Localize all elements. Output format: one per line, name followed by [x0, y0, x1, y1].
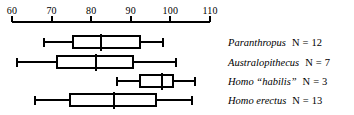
axis-tick-label-90: 90 [126, 5, 136, 16]
legend-row: Homo erectusN=13 [228, 91, 354, 109]
box-iqr [73, 36, 140, 48]
axis-tick-label-80: 80 [86, 5, 96, 16]
taxon-name: Homo erectus [228, 95, 286, 106]
sample-size-value: 7 [325, 57, 330, 68]
axis-tick-label-110: 110 [202, 5, 217, 16]
axis-tick-label-60: 60 [7, 5, 17, 16]
legend-row: Homo “habilis”N=3 [228, 72, 354, 90]
axis-tick-label-100: 100 [163, 5, 179, 16]
sample-size-symbol: N [292, 95, 300, 106]
taxon-name: Australopithecus [228, 57, 299, 68]
legend-row: AustralopithecusN=7 [228, 53, 354, 71]
plot-area: 60708090100110 [0, 0, 220, 115]
sample-size-symbol: N [303, 76, 311, 87]
taxon-name: Paranthropus [228, 37, 286, 48]
legend: ParanthropusN=12AustralopithecusN=7Homo … [228, 28, 354, 110]
sample-size-symbol: N [292, 37, 300, 48]
equals-sign: = [316, 57, 322, 68]
legend-row: ParanthropusN=12 [228, 33, 354, 51]
box-iqr [140, 75, 173, 87]
box-iqr [70, 94, 156, 106]
sample-size-value: 3 [322, 76, 327, 87]
equals-sign: = [303, 95, 309, 106]
taxon-name: Homo “habilis” [228, 76, 297, 87]
boxplot-figure: 60708090100110 ParanthropusN=12Australop… [0, 0, 354, 115]
sample-size-symbol: N [305, 57, 313, 68]
boxplot-canvas [0, 0, 220, 115]
equals-sign: = [313, 76, 319, 87]
axis-tick-label-70: 70 [46, 5, 56, 16]
sample-size-value: 12 [311, 37, 322, 48]
sample-size-value: 13 [312, 95, 323, 106]
equals-sign: = [303, 37, 309, 48]
